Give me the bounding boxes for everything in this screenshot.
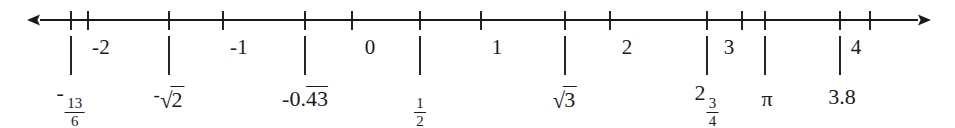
fraction-numerator: 13 [65,96,85,113]
integer-label-neg2: -2 [92,37,110,58]
value-label-neg-thirteen-sixths: -136 [57,82,86,128]
value-label-pi: π [761,88,772,110]
radical-sqrt-2: √2 [160,86,184,111]
decimal-lead: 0. [289,86,306,111]
integer-label-3: 3 [724,37,735,58]
integer-label-2: 2 [622,37,633,58]
fraction-numerator: 1 [414,96,427,113]
value-label-two-and-three-quarters: 234 [694,82,719,128]
number-line-figure: -2 -1 0 1 2 3 4 -136 -√2 -0.43 12 √3 234… [0,0,955,128]
integer-label-neg1: -1 [230,37,248,58]
radical-sign-icon: √ [160,90,172,112]
value-label-neg-sqrt-2: -√2 [153,86,184,111]
fraction-13-6: 136 [65,96,85,128]
number-line-axis [0,0,955,128]
integer-label-4: 4 [851,37,862,58]
minus-sign: - [153,86,159,105]
radical-sqrt-3: √3 [553,86,577,111]
minus-sign: - [57,80,64,105]
integer-label-0: 0 [365,37,376,58]
radical-sign-icon: √ [553,90,565,112]
integer-label-1: 1 [492,37,503,58]
fraction-denominator: 4 [706,113,719,128]
fraction-1-2: 12 [414,96,427,128]
mixed-whole-part: 2 [694,80,705,105]
value-label-one-half: 12 [413,82,427,128]
radicand: 3 [563,86,577,111]
radicand: 2 [171,86,185,111]
repeating-bar: 43 [306,86,328,110]
fraction-numerator: 3 [706,96,719,113]
fraction-denominator: 6 [68,113,81,128]
value-label-neg-0-43-repeating: -0.43 [282,86,328,110]
fraction-3-4: 34 [706,96,719,128]
value-label-three-point-eight: 3.8 [828,86,856,108]
fraction-denominator: 2 [414,113,427,128]
value-label-sqrt-3: √3 [553,86,577,111]
